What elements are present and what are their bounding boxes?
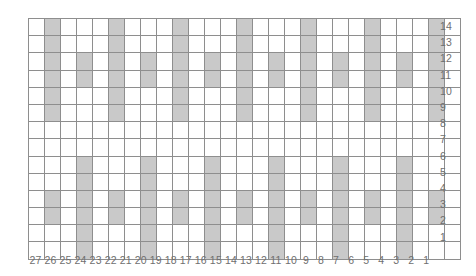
stitch-cell [269,122,285,139]
stitch-cell [29,36,45,53]
stitch-cell [317,87,333,104]
stitch-cell [333,122,349,139]
stitch-cell [237,104,253,121]
row-number-label: 9 [440,99,470,115]
stitch-cell [29,173,45,190]
stitch-cell [397,173,413,190]
stitch-cell [157,208,173,225]
stitch-cell [381,156,397,173]
stitch-cell [221,208,237,225]
column-number-label: 11 [269,250,284,270]
stitch-cell [397,208,413,225]
stitch-cell [301,70,317,87]
row-number-label: 8 [440,115,470,131]
stitch-cell [349,173,365,190]
stitch-cell [269,19,285,36]
stitch-cell [413,104,429,121]
stitch-cell [413,190,429,207]
stitch-cell [205,53,221,70]
stitch-cell [221,19,237,36]
stitch-cell [381,208,397,225]
column-number-label: 25 [58,250,73,270]
stitch-row [29,139,461,156]
stitch-cell [109,87,125,104]
stitch-cell [237,156,253,173]
stitch-cell [253,104,269,121]
stitch-cell [237,208,253,225]
stitch-cell [77,53,93,70]
stitch-cell [93,36,109,53]
stitch-cell [173,173,189,190]
stitch-cell [61,53,77,70]
stitch-cell [269,70,285,87]
stitch-cell [109,53,125,70]
row-number-label: 1 [440,229,470,245]
stitch-cell [173,104,189,121]
stitch-cell [173,225,189,242]
stitch-cell [221,190,237,207]
stitch-cell [269,53,285,70]
stitch-cell [237,70,253,87]
stitch-cell [269,139,285,156]
stitch-cell [253,208,269,225]
stitch-cell [189,104,205,121]
row-number-label: 10 [440,83,470,99]
stitch-cell [93,208,109,225]
stitch-cell [61,208,77,225]
stitch-cell [285,19,301,36]
stitch-cell [61,156,77,173]
stitch-cell [237,122,253,139]
stitch-cell [365,173,381,190]
stitch-cell [381,36,397,53]
stitch-cell [141,36,157,53]
stitch-cell [301,225,317,242]
stitch-cell [317,36,333,53]
stitch-cell [141,53,157,70]
column-number-label: 13 [238,250,253,270]
stitch-cell [173,87,189,104]
row-number-axis: 1413121110987654321 [440,18,470,245]
stitch-cell [253,139,269,156]
stitch-cell [253,53,269,70]
stitch-cell [253,122,269,139]
stitch-cell [397,87,413,104]
stitch-cell [109,122,125,139]
stitch-cell [157,173,173,190]
stitch-cell [221,122,237,139]
stitch-cell [189,87,205,104]
stitch-cell [349,190,365,207]
column-number-label: 21 [118,250,133,270]
stitch-cell [205,225,221,242]
stitch-cell [301,139,317,156]
stitch-row [29,156,461,173]
stitch-cell [173,190,189,207]
row-number-label: 2 [440,213,470,229]
stitch-cell [125,87,141,104]
stitch-cell [397,225,413,242]
stitch-cell [349,87,365,104]
stitch-row [29,53,461,70]
stitch-cell [253,36,269,53]
column-number-label: 6 [344,250,359,270]
stitch-cell [365,87,381,104]
stitch-cell [365,19,381,36]
stitch-cell [61,225,77,242]
stitch-cell [141,190,157,207]
stitch-cell [93,19,109,36]
stitch-cell [333,87,349,104]
stitch-cell [45,173,61,190]
stitch-cell [109,208,125,225]
stitch-cell [269,190,285,207]
stitch-cell [333,190,349,207]
stitch-chart-figure: 1413121110987654321 27262524232221201918… [0,0,476,276]
stitch-cell [125,104,141,121]
row-number-label: 14 [440,18,470,34]
stitch-cell [269,208,285,225]
stitch-cell [253,190,269,207]
stitch-cell [317,208,333,225]
column-number-label: 17 [178,250,193,270]
column-number-label: 8 [314,250,329,270]
stitch-cell [45,225,61,242]
stitch-cell [45,122,61,139]
row-number-label: 6 [440,148,470,164]
